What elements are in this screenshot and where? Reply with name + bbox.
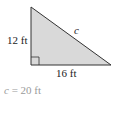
right-triangle-figure xyxy=(0,0,117,119)
hypotenuse-label: c xyxy=(74,25,79,36)
vertical-leg-label: 12 ft xyxy=(7,35,27,46)
answer-variable: c xyxy=(4,84,9,96)
triangle-shape xyxy=(31,7,111,65)
horizontal-leg-label: 16 ft xyxy=(56,68,76,79)
answer-line: c = 20 ft xyxy=(4,85,41,96)
answer-equals: = xyxy=(12,84,18,96)
answer-value: 20 ft xyxy=(21,84,41,96)
